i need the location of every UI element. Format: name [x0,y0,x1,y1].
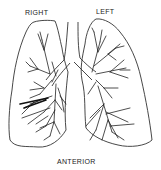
trachea [64,22,80,60]
lungs-illustration [0,0,161,170]
main-bronchi [46,58,96,86]
left-lung-outline [81,19,152,146]
left-bronchial-tree [86,28,134,140]
right-lung-outline [9,20,68,147]
right-bronchial-tree [20,32,66,140]
